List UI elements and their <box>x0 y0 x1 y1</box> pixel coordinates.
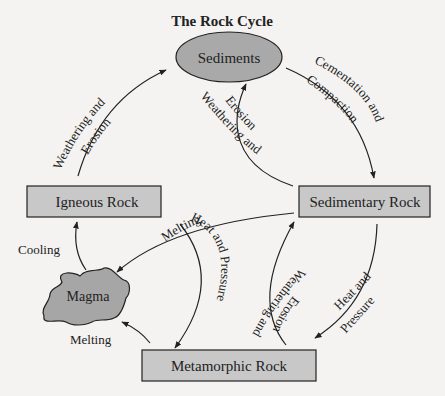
label-cooling: Cooling <box>18 242 60 257</box>
svg-text:Sediments: Sediments <box>198 50 261 66</box>
node-sediments: Sediments <box>176 32 282 82</box>
node-metamorphic-rock: Metamorphic Rock <box>142 350 316 381</box>
arrow-igneous-to-metamorphic <box>175 224 201 348</box>
svg-text:Magma: Magma <box>67 289 111 304</box>
svg-text:Igneous Rock: Igneous Rock <box>56 194 139 210</box>
diagram-title: The Rock Cycle <box>171 13 273 29</box>
node-igneous-rock: Igneous Rock <box>27 186 161 217</box>
arrow-metamorphic-to-magma <box>122 322 150 343</box>
node-magma: Magma <box>43 268 129 325</box>
svg-text:Sedimentary Rock: Sedimentary Rock <box>309 194 421 210</box>
arrow-magma-to-igneous <box>76 222 86 270</box>
svg-text:Metamorphic Rock: Metamorphic Rock <box>171 358 288 374</box>
label-melting-bottom: Melting <box>70 332 112 347</box>
node-sedimentary-rock: Sedimentary Rock <box>299 186 430 217</box>
rock-cycle-diagram: The Rock Cycle Sediments Igneous Rock Se… <box>0 0 445 396</box>
